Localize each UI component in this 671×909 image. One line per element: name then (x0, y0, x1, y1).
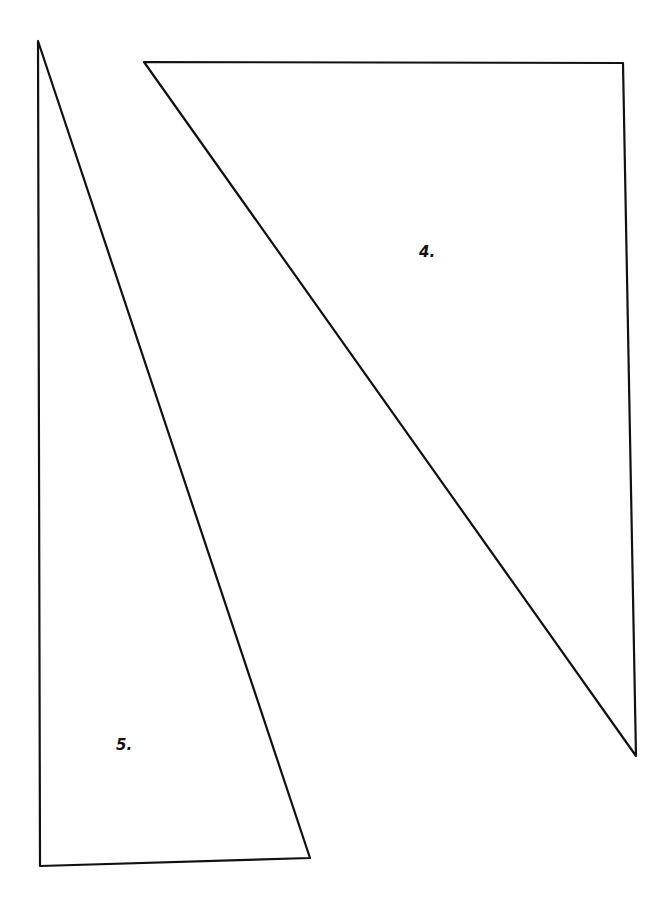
diagram-canvas (0, 0, 671, 909)
triangle-5-label: 5. (116, 736, 132, 754)
triangle-4-label: 4. (419, 243, 435, 261)
triangle-5 (38, 41, 310, 866)
triangle-4 (144, 62, 636, 756)
